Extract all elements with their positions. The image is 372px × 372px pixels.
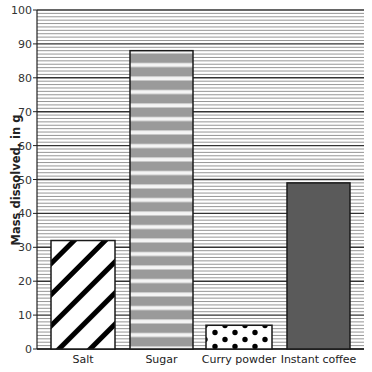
- bar-curry-powder: [206, 325, 272, 349]
- y-tick-label: 100: [11, 4, 32, 17]
- bar-chart: 0102030405060708090100 SaltSugarCurry po…: [0, 0, 372, 372]
- y-tick-label: 20: [18, 275, 32, 288]
- x-axis-labels: SaltSugarCurry powderInstant coffee: [72, 353, 356, 366]
- y-tick-label: 10: [18, 309, 32, 322]
- x-category-label: Instant coffee: [281, 353, 357, 366]
- y-tick-label: 0: [25, 343, 32, 356]
- bar-instant-coffee: [287, 183, 350, 349]
- y-tick-label: 90: [18, 38, 32, 51]
- x-category-label: Sugar: [145, 353, 178, 366]
- bar-sugar: [130, 51, 193, 349]
- y-axis-title: Mass dissolved, in g: [9, 115, 23, 246]
- y-tick-label: 80: [18, 72, 32, 85]
- bar-salt: [51, 241, 115, 349]
- x-category-label: Curry powder: [202, 353, 277, 366]
- x-category-label: Salt: [72, 353, 94, 366]
